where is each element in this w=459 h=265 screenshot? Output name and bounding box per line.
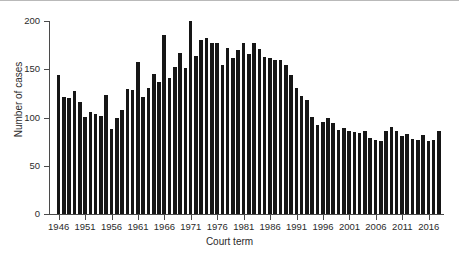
bar [126, 89, 130, 214]
y-axis-tick-label: 150 [24, 64, 40, 74]
x-axis-tick-label: 1981 [233, 222, 254, 232]
x-axis-tick-label: 1971 [180, 222, 201, 232]
bar [131, 90, 135, 214]
bar [215, 43, 219, 215]
x-axis-tick [323, 215, 324, 220]
x-axis-tick [85, 215, 86, 220]
bar [194, 56, 198, 214]
bar [405, 134, 409, 214]
bar [189, 21, 193, 214]
bar [273, 60, 277, 214]
bar [152, 74, 156, 214]
bar [89, 112, 93, 214]
bar [231, 58, 235, 214]
x-axis-tick [191, 215, 192, 220]
bar [384, 131, 388, 214]
y-axis-tick [44, 166, 49, 167]
bar [258, 49, 262, 214]
x-axis-tick-label: 1996 [312, 222, 333, 232]
y-axis-title: Number of cases [13, 30, 24, 170]
bar [141, 97, 145, 214]
x-axis-tick [429, 215, 430, 220]
x-axis-tick-label: 1986 [260, 222, 281, 232]
bar [57, 75, 61, 214]
bar [168, 78, 172, 214]
bar [263, 57, 267, 214]
bar-series [56, 18, 442, 214]
x-axis-tick-label: 1976 [207, 222, 228, 232]
bar [205, 38, 209, 214]
x-axis-line [49, 214, 444, 215]
x-axis-tick-label: 1956 [101, 222, 122, 232]
bar [321, 122, 325, 214]
bar [73, 91, 77, 214]
y-axis-tick [44, 21, 49, 22]
y-axis-tick-label: 0 [35, 209, 40, 219]
x-axis-tick [402, 215, 403, 220]
bar [421, 135, 425, 214]
bar [363, 131, 367, 214]
bar [284, 65, 288, 214]
bar [147, 88, 151, 214]
x-axis-tick-label: 2006 [365, 222, 386, 232]
bar [252, 43, 256, 214]
bar [416, 140, 420, 214]
x-axis-tick-label: 1991 [286, 222, 307, 232]
bar [279, 60, 283, 214]
x-axis-tick [349, 215, 350, 220]
bar [295, 88, 299, 214]
bar [337, 130, 341, 214]
bar [236, 50, 240, 214]
y-axis-tick [44, 69, 49, 70]
bar [110, 129, 114, 214]
x-axis-tick-label: 2016 [418, 222, 439, 232]
bar [437, 131, 441, 214]
bar [242, 43, 246, 214]
x-axis-tick-label: 2001 [339, 222, 360, 232]
y-axis-tick [44, 214, 49, 215]
bar [300, 96, 304, 214]
bar [162, 35, 166, 214]
bar [199, 40, 203, 214]
chart-figure: 050100150200 194619511956196119661971197… [0, 0, 459, 265]
bar [83, 117, 87, 214]
x-axis-tick [244, 215, 245, 220]
x-axis-tick [138, 215, 139, 220]
bar [390, 127, 394, 214]
bar [178, 53, 182, 214]
bar [115, 118, 119, 214]
bar [400, 136, 404, 214]
bar [99, 116, 103, 214]
y-axis-line [49, 21, 50, 214]
bar [427, 141, 431, 215]
bar [326, 118, 330, 214]
bar [353, 132, 357, 214]
bar [289, 75, 293, 214]
bar [173, 67, 177, 214]
bar [136, 62, 140, 214]
x-axis-tick [112, 215, 113, 220]
bar [432, 140, 436, 214]
bar [374, 140, 378, 214]
plot-area [56, 18, 442, 214]
bar [310, 117, 314, 214]
bar [305, 100, 309, 214]
x-axis-title: Court term [0, 236, 459, 247]
bar [62, 97, 66, 214]
x-axis-tick [376, 215, 377, 220]
bar [157, 82, 161, 214]
bar [120, 110, 124, 214]
bar [221, 65, 225, 214]
x-axis-tick-label: 1966 [154, 222, 175, 232]
bar [184, 68, 188, 214]
bar [379, 141, 383, 215]
x-axis-tick [297, 215, 298, 220]
bar [342, 128, 346, 214]
x-axis-tick-label: 2011 [392, 222, 412, 232]
bar [67, 98, 71, 214]
x-axis-tick [217, 215, 218, 220]
x-axis-tick-label: 1946 [48, 222, 69, 232]
bar [411, 139, 415, 214]
x-axis-tick [59, 215, 60, 220]
bar [94, 114, 98, 214]
